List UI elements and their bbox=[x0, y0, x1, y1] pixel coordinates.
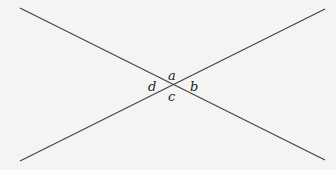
diagram-canvas: a b c d bbox=[0, 0, 336, 170]
angle-label-bottom: c bbox=[168, 90, 175, 103]
angle-label-top: a bbox=[168, 69, 176, 82]
line-bottom-left-to-top-right bbox=[20, 9, 325, 161]
angle-label-left: d bbox=[148, 80, 156, 93]
line-top-left-to-bottom-right bbox=[20, 8, 325, 160]
angle-label-right: b bbox=[190, 80, 198, 93]
diagram-svg bbox=[0, 0, 336, 170]
